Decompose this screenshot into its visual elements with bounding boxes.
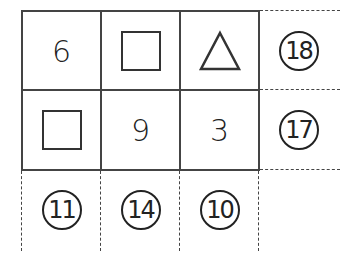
row-sum-2: 17 — [259, 90, 338, 170]
cell-number: 9 — [131, 113, 150, 148]
cell-r1-c3[interactable] — [180, 11, 259, 91]
square-icon[interactable] — [121, 31, 161, 71]
cell-r1-c2[interactable] — [101, 11, 180, 91]
column-sum-1: 11 — [22, 170, 101, 250]
cell-r1-c1: 6 — [22, 11, 101, 91]
circled-number: 10 — [200, 190, 240, 230]
circled-number: 18 — [279, 31, 319, 71]
cell-r2-c3: 3 — [180, 90, 259, 170]
square-icon[interactable] — [42, 110, 82, 150]
cell-r2-c1[interactable] — [22, 90, 101, 170]
row-sum-1: 18 — [259, 11, 338, 91]
circled-number: 17 — [279, 110, 319, 150]
column-sum-2: 14 — [101, 170, 180, 250]
cell-number: 6 — [52, 34, 71, 69]
column-sum-3: 10 — [180, 170, 259, 250]
triangle-icon[interactable] — [198, 29, 242, 73]
cell-r2-c2: 9 — [101, 90, 180, 170]
circled-number: 14 — [121, 190, 161, 230]
cell-number: 3 — [210, 113, 229, 148]
math-puzzle-grid: 6 18 9 3 17 11 14 10 — [0, 0, 354, 264]
circled-number: 11 — [42, 190, 82, 230]
